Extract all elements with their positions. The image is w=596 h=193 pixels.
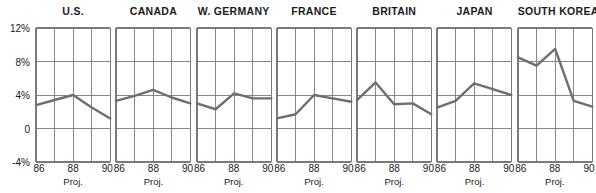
plot-area: [116, 28, 190, 162]
x-axis-tick: 86: [355, 163, 366, 174]
x-axis-tick: 88: [549, 163, 560, 174]
x-axis: 868890: [277, 163, 351, 176]
x-axis: 868890: [116, 163, 190, 176]
chart-panel: CANADA868890Proj.: [116, 0, 190, 193]
x-axis: 868890: [197, 163, 271, 176]
x-axis-tick: 90: [182, 163, 193, 174]
x-axis-tick: 86: [114, 163, 125, 174]
chart-panel: FRANCE868890Proj.: [277, 0, 351, 193]
chart-panel: U.S.868890Proj.: [36, 0, 110, 193]
panel-title: BRITAIN: [357, 5, 431, 17]
projection-label: Proj.: [277, 176, 351, 187]
panel-grid: U.S.868890Proj.CANADA868890Proj.W. GERMA…: [0, 0, 596, 193]
panel-title: U.S.: [36, 5, 110, 17]
x-axis-tick: 90: [262, 163, 273, 174]
panel-title: CANADA: [116, 5, 190, 17]
projection-label: Proj.: [197, 176, 271, 187]
x-axis-tick: 86: [274, 163, 285, 174]
x-axis-tick: 86: [194, 163, 205, 174]
x-axis-tick: 90: [102, 163, 113, 174]
projection-label: Proj.: [518, 176, 592, 187]
x-axis-tick: 90: [583, 163, 594, 174]
x-axis: 868890: [437, 163, 511, 176]
plot-area: [277, 28, 351, 162]
x-axis-tick: 90: [503, 163, 514, 174]
panel-title: FRANCE: [277, 5, 351, 17]
chart-panel: SOUTH KOREA868890Proj.: [518, 0, 592, 193]
plot-area: [36, 28, 110, 162]
chart-panel: W. GERMANY868890Proj.: [197, 0, 271, 193]
x-axis-tick: 90: [343, 163, 354, 174]
x-axis-tick: 86: [515, 163, 526, 174]
plot-area: [357, 28, 431, 162]
x-axis-tick: 86: [435, 163, 446, 174]
x-axis: 868890: [518, 163, 592, 176]
x-axis-tick: 90: [423, 163, 434, 174]
x-axis-tick: 88: [228, 163, 239, 174]
x-axis-tick: 88: [469, 163, 480, 174]
panel-title: W. GERMANY: [197, 5, 271, 17]
x-axis-tick: 88: [308, 163, 319, 174]
x-axis-tick: 86: [33, 163, 44, 174]
x-axis: 868890: [357, 163, 431, 176]
chart-panel: BRITAIN868890Proj.: [357, 0, 431, 193]
projection-label: Proj.: [437, 176, 511, 187]
panel-title: JAPAN: [437, 5, 511, 17]
plot-area: [518, 28, 592, 162]
panel-title: SOUTH KOREA: [518, 5, 592, 17]
chart-figure: 12% 8% 4% 0 -4% U.S.868890Proj.CANADA868…: [0, 0, 596, 193]
projection-label: Proj.: [357, 176, 431, 187]
plot-area: [197, 28, 271, 162]
x-axis: 868890: [36, 163, 110, 176]
chart-panel: JAPAN868890Proj.: [437, 0, 511, 193]
plot-area: [437, 28, 511, 162]
projection-label: Proj.: [36, 176, 110, 187]
x-axis-tick: 88: [389, 163, 400, 174]
x-axis-tick: 88: [148, 163, 159, 174]
projection-label: Proj.: [116, 176, 190, 187]
x-axis-tick: 88: [68, 163, 79, 174]
